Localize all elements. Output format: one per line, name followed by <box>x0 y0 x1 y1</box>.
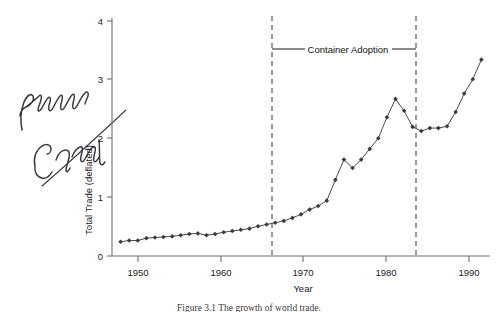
series-point <box>144 236 149 241</box>
series-point <box>453 110 458 115</box>
x-tick-label-1950: 1950 <box>127 267 148 278</box>
series-point <box>471 77 476 82</box>
series-point <box>445 124 450 129</box>
series-point <box>299 212 304 217</box>
series-point <box>153 235 158 240</box>
series-point <box>213 232 218 237</box>
y-tick-label-2: 2 <box>98 133 103 144</box>
trade-series <box>118 57 483 244</box>
series-point <box>196 231 201 236</box>
y-tick-label-4: 4 <box>98 16 103 27</box>
x-tick-label-1960: 1960 <box>210 267 231 278</box>
series-point <box>307 207 312 212</box>
series-point <box>256 224 261 229</box>
series-point <box>178 233 183 238</box>
series-point <box>282 219 287 224</box>
series-point <box>187 232 192 237</box>
y-tick-label-1: 1 <box>98 192 103 203</box>
figure-root: 4 3 2 1 0 1950 1960 1970 1980 1990 Total… <box>0 0 498 312</box>
series-point <box>161 235 166 240</box>
container-adoption-annotation: Container Adoption <box>272 44 416 55</box>
series-point <box>118 239 123 244</box>
x-axis-title: Year <box>293 283 312 294</box>
series-point <box>479 57 484 62</box>
series-point <box>170 234 175 239</box>
series-point <box>419 129 424 134</box>
series-point <box>273 220 278 225</box>
series-point <box>230 229 235 234</box>
series-point <box>127 238 132 243</box>
series-point <box>428 126 433 131</box>
y-tick-label-0: 0 <box>98 251 103 262</box>
series-point <box>135 238 140 243</box>
series-point <box>333 178 338 183</box>
series-point <box>221 230 226 235</box>
series-point <box>436 126 441 131</box>
trade-line-chart: 4 3 2 1 0 1950 1960 1970 1980 1990 Total… <box>0 0 498 312</box>
x-tick-label-1990: 1990 <box>458 267 479 278</box>
y-tick-label-3: 3 <box>98 74 103 85</box>
series-point <box>239 228 244 233</box>
annotation-label-container-adoption: Container Adoption <box>308 44 389 55</box>
series-point <box>385 115 390 120</box>
series-point <box>324 198 329 203</box>
series-point <box>290 216 295 221</box>
x-tick-label-1980: 1980 <box>375 267 396 278</box>
series-point <box>316 204 321 209</box>
chart-axes: 4 3 2 1 0 1950 1960 1970 1980 1990 Total… <box>83 16 490 295</box>
series-point <box>247 226 252 231</box>
series-point <box>204 233 209 238</box>
handwritten-panama-canal-note <box>20 92 126 186</box>
x-tick-label-1970: 1970 <box>292 267 313 278</box>
series-point <box>264 222 269 227</box>
series-markers <box>118 57 483 244</box>
y-axis-title: Total Trade (deflated) <box>83 145 94 235</box>
figure-caption: Figure 3.1 The growth of world trade. <box>177 303 321 312</box>
series-point <box>462 91 467 96</box>
series-point <box>410 125 415 130</box>
